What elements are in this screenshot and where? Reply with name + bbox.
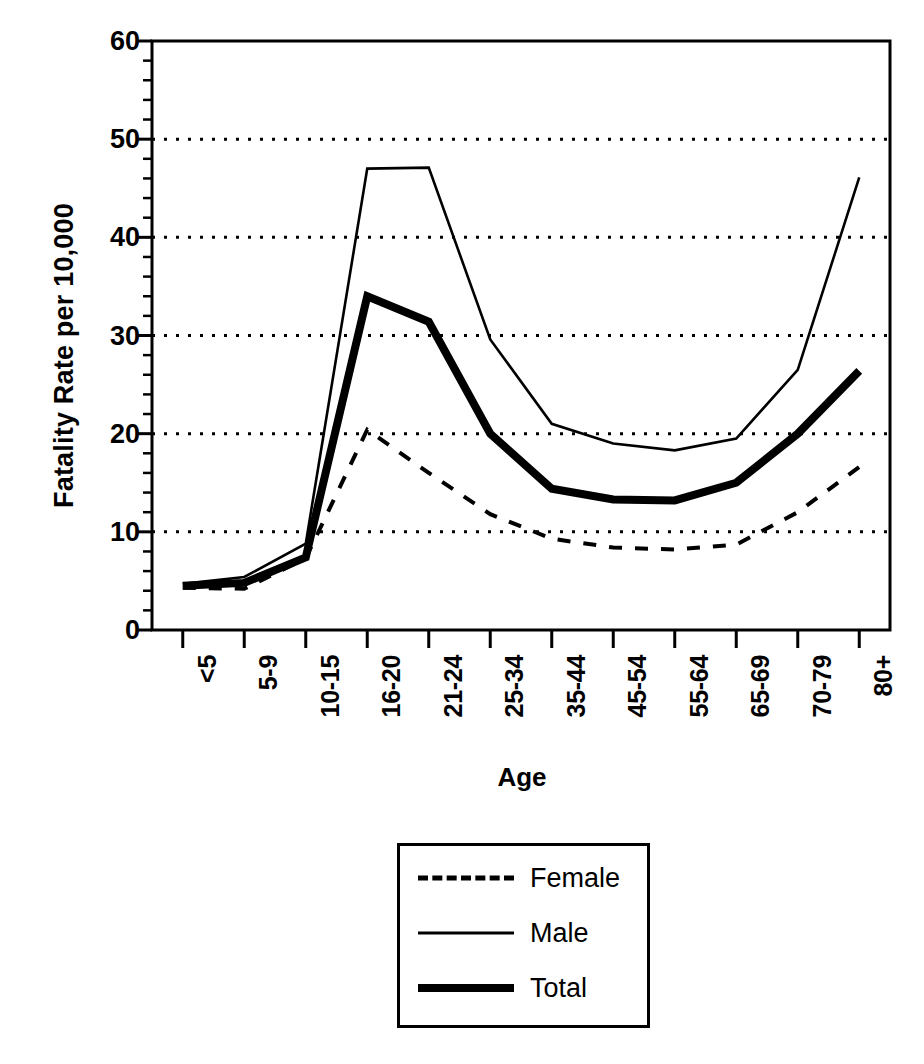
legend-label-total: Total [530, 973, 587, 1004]
legend-swatch-female [418, 876, 514, 881]
legend-item-male: Male [400, 909, 647, 957]
legend-label-male: Male [530, 918, 589, 949]
legend-swatch-male [418, 932, 514, 935]
legend-label-female: Female [530, 863, 620, 894]
legend-item-female: Female [400, 854, 647, 902]
series-line-male [183, 168, 860, 584]
series-line-total [183, 296, 860, 586]
legend-item-total: Total [400, 964, 647, 1012]
legend: Female Male Total [397, 843, 650, 1028]
chart-figure: Fatality Rate per 10,000 0102030405060 <… [0, 0, 924, 1064]
legend-swatch-total [418, 984, 514, 992]
